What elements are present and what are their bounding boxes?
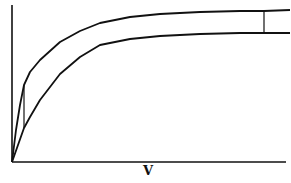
saturation-curves-diagram xyxy=(0,0,291,183)
x-axis-label: V xyxy=(141,164,155,178)
lower-curve xyxy=(12,33,290,162)
vertical-connectors xyxy=(24,11,264,128)
